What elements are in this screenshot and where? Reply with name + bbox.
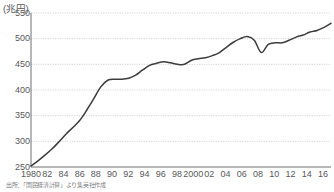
x-axis-tick-label: 86 [75,169,85,179]
gdp-line-chart: (兆円) 250300350400450500550 1980828486889… [0,0,334,192]
y-axis-tick-label: 350 [2,111,30,120]
x-axis-tick-label: 98 [172,169,182,179]
x-axis-tick-labels: 1980828486889092949698200002040608101214… [31,169,331,180]
y-axis-tick-label: 550 [2,9,30,18]
x-axis-tick-label: 94 [139,169,149,179]
x-axis-tick-label: 16 [318,169,328,179]
x-axis-tick-label: 88 [91,169,101,179]
gridlines [31,13,331,141]
x-axis-tick-label: 10 [269,169,279,179]
x-axis-tick-label: 92 [123,169,133,179]
y-axis-tick-labels: 250300350400450500550 [0,13,30,167]
x-axis-tick-label: 06 [237,169,247,179]
y-axis-tick-label: 400 [2,86,30,95]
x-axis-tick-label: 2000 [183,169,203,179]
x-axis-tick-label: 12 [285,169,295,179]
gdp-series-line [31,23,331,166]
y-axis-tick-label: 500 [2,34,30,43]
source-note: 出所：「国民経済計算」より集英社作成 [6,181,106,189]
y-axis-tick-label: 450 [2,60,30,69]
x-axis-tick-label: 82 [42,169,52,179]
x-axis-tick-label: 08 [253,169,263,179]
x-axis-tick-label: 96 [156,169,166,179]
x-axis-tick-label: 02 [204,169,214,179]
x-axis-tick-label: 84 [58,169,68,179]
plot-area [31,13,331,167]
x-axis-tick-label: 14 [302,169,312,179]
y-axis-tick-label: 300 [2,137,30,146]
x-axis-tick-label: 04 [221,169,231,179]
x-axis-tick-label: 90 [107,169,117,179]
plot-svg [31,13,331,167]
x-axis-tick-label: 1980 [21,169,41,179]
